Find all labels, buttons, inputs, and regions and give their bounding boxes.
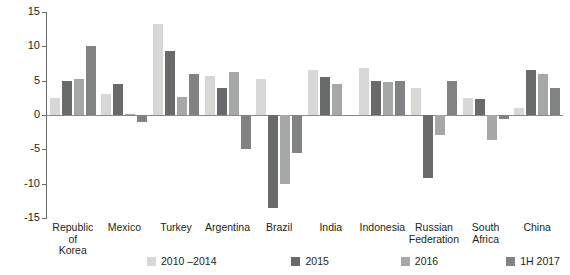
bar-groups: [47, 12, 563, 218]
bar-group: [253, 12, 305, 218]
bar-slot: [526, 12, 536, 218]
bar: [395, 81, 405, 115]
y-tick-label: -15: [6, 212, 40, 223]
bar: [538, 74, 548, 115]
y-axis-labels: 151050-5-10-15: [0, 0, 40, 218]
bar-slot: [395, 12, 405, 218]
bar: [113, 84, 123, 115]
legend-label: 1H 2017: [520, 255, 560, 267]
legend-swatch-icon: [401, 257, 410, 266]
bar-slot: [101, 12, 111, 218]
bar-slot: [514, 12, 524, 218]
bar: [475, 99, 485, 115]
y-tick-label: 5: [6, 75, 40, 86]
bar-group: [99, 12, 151, 218]
bar: [435, 115, 445, 135]
bar-slot: [177, 12, 187, 218]
bar-slot: [550, 12, 560, 218]
bar: [217, 88, 227, 115]
bar: [344, 115, 354, 116]
bar-group: [357, 12, 409, 218]
bar-group-bars: [47, 12, 99, 218]
bar-group-bars: [511, 12, 563, 218]
bar: [447, 81, 457, 115]
bar: [514, 108, 524, 115]
bar-slot: [268, 12, 278, 218]
bar: [411, 88, 421, 115]
legend-swatch-icon: [506, 257, 515, 266]
x-tick-label-line: Indonesia: [357, 222, 409, 234]
bar: [550, 88, 560, 115]
bar-slot: [256, 12, 266, 218]
bar-chart: 151050-5-10-15 RepublicofKoreaMexicoTurk…: [0, 0, 570, 275]
bar: [487, 115, 497, 140]
legend-label: 2016: [415, 255, 438, 267]
bar: [383, 82, 393, 115]
bar-group-bars: [99, 12, 151, 218]
bar-slot: [189, 12, 199, 218]
bar: [177, 97, 187, 115]
bar-group-bars: [460, 12, 512, 218]
bar-slot: [371, 12, 381, 218]
bar: [189, 74, 199, 115]
x-tick-label-line: Brazil: [253, 222, 305, 234]
bar-slot: [332, 12, 342, 218]
bar-group: [202, 12, 254, 218]
x-tick-label-line: India: [305, 222, 357, 234]
bar-slot: [153, 12, 163, 218]
bar-slot: [137, 12, 147, 218]
y-tick-label: 15: [6, 6, 40, 17]
bar: [308, 70, 318, 115]
bar: [153, 24, 163, 115]
bar-slot: [487, 12, 497, 218]
x-tick-label-line: Russian: [408, 222, 460, 234]
bar: [229, 72, 239, 115]
bar-group-bars: [202, 12, 254, 218]
bar: [292, 115, 302, 153]
bar: [268, 115, 278, 208]
bar-slot: [62, 12, 72, 218]
x-tick-label-line: Argentina: [202, 222, 254, 234]
bar-group: [150, 12, 202, 218]
bar: [125, 114, 135, 115]
x-tick-label-line: Africa: [460, 234, 512, 246]
legend-item[interactable]: 2015: [291, 255, 328, 267]
bar: [62, 81, 72, 115]
bar: [137, 115, 147, 122]
bar: [256, 79, 266, 115]
bar-slot: [383, 12, 393, 218]
bar-slot: [423, 12, 433, 218]
bar-slot: [463, 12, 473, 218]
bar: [423, 115, 433, 178]
bar-slot: [280, 12, 290, 218]
bar-slot: [344, 12, 354, 218]
legend-item[interactable]: 2010 –2014: [147, 255, 216, 267]
bar: [165, 51, 175, 115]
bar-slot: [447, 12, 457, 218]
legend-item[interactable]: 2016: [401, 255, 438, 267]
bar: [359, 68, 369, 115]
bar-group: [460, 12, 512, 218]
bar-slot: [74, 12, 84, 218]
x-tick-label-line: South: [460, 222, 512, 234]
bar-slot: [113, 12, 123, 218]
y-tick-mark: [42, 218, 47, 219]
legend-item[interactable]: 1H 2017: [506, 255, 560, 267]
legend-swatch-icon: [147, 257, 156, 266]
x-tick-label-line: Mexico: [99, 222, 151, 234]
bar: [499, 115, 509, 119]
bar-slot: [538, 12, 548, 218]
bar-group-bars: [305, 12, 357, 218]
legend-label: 2015: [305, 255, 328, 267]
bar-group: [47, 12, 99, 218]
bar: [280, 115, 290, 184]
bar-slot: [165, 12, 175, 218]
bar-slot: [241, 12, 251, 218]
x-tick-label-line: Federation: [408, 234, 460, 246]
bar: [241, 115, 251, 149]
y-tick-label: 10: [6, 40, 40, 51]
bar-slot: [499, 12, 509, 218]
y-tick-label: 0: [6, 109, 40, 120]
bar-slot: [308, 12, 318, 218]
bar-slot: [86, 12, 96, 218]
